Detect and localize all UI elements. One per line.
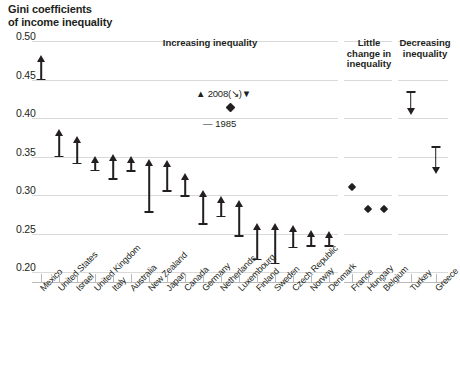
diamond-marker-icon xyxy=(379,205,388,214)
data-marker xyxy=(430,34,441,274)
change-stem xyxy=(40,59,42,79)
arrow-down-icon xyxy=(432,167,440,174)
change-stem xyxy=(202,194,204,224)
data-marker xyxy=(72,34,83,274)
data-marker xyxy=(234,34,245,274)
arrow-up-icon xyxy=(271,223,279,230)
chart-title: Gini coefficients of income inequality xyxy=(8,3,112,28)
data-marker xyxy=(216,34,227,274)
data-marker xyxy=(36,34,47,274)
change-stem xyxy=(76,140,78,163)
arrow-up-icon xyxy=(145,159,153,166)
change-stem xyxy=(58,133,60,157)
data-marker xyxy=(405,34,416,274)
arrow-up-icon xyxy=(55,129,63,136)
x-axis: MexicoUnited StatesIsraelUnited KingdomI… xyxy=(0,274,457,372)
data-marker xyxy=(108,34,119,274)
diamond-marker-icon xyxy=(363,205,372,214)
y-axis-tick-label: 0.25 xyxy=(16,223,36,235)
y-axis-tick-label: 0.40 xyxy=(16,107,36,119)
data-marker xyxy=(306,34,317,274)
data-marker xyxy=(252,34,263,274)
y-axis-tick-label: 0.35 xyxy=(16,146,36,158)
data-marker xyxy=(198,34,209,274)
arrow-up-icon xyxy=(199,190,207,197)
arrow-up-icon xyxy=(289,225,297,232)
change-stem xyxy=(112,158,114,179)
data-marker xyxy=(54,34,65,274)
arrow-up-icon xyxy=(307,230,315,237)
arrow-up-icon xyxy=(181,173,189,180)
data-marker xyxy=(288,34,299,274)
data-marker xyxy=(162,34,173,274)
data-marker xyxy=(180,34,191,274)
arrow-up-icon xyxy=(217,196,225,203)
data-marker xyxy=(270,34,281,274)
data-marker xyxy=(126,34,137,274)
data-marker xyxy=(347,34,358,274)
data-marker xyxy=(324,34,335,274)
arrow-up-icon xyxy=(163,160,171,167)
data-marker xyxy=(144,34,155,274)
arrow-up-icon xyxy=(235,200,243,207)
y-axis-tick-label: 0.20 xyxy=(16,261,36,273)
change-stem xyxy=(148,163,150,212)
y-axis-tick-label: 0.45 xyxy=(16,69,36,81)
arrow-up-icon xyxy=(127,156,135,163)
arrow-down-icon xyxy=(407,108,415,115)
arrow-up-icon xyxy=(109,154,117,161)
y-axis-tick-label: 0.50 xyxy=(16,30,36,42)
data-marker xyxy=(90,34,101,274)
change-stem xyxy=(238,204,240,236)
diamond-marker-icon xyxy=(347,183,356,192)
data-marker xyxy=(363,34,374,274)
arrow-up-icon xyxy=(253,223,261,230)
arrow-up-icon xyxy=(37,55,45,62)
change-stem xyxy=(166,164,168,191)
arrow-up-icon xyxy=(325,231,333,238)
change-stem xyxy=(256,227,258,260)
arrow-up-icon xyxy=(73,136,81,143)
arrow-up-icon xyxy=(91,156,99,163)
data-marker xyxy=(379,34,390,274)
plot-area: 0.500.450.400.350.300.250.20Increasing i… xyxy=(0,34,457,274)
y-axis-tick-label: 0.30 xyxy=(16,184,36,196)
